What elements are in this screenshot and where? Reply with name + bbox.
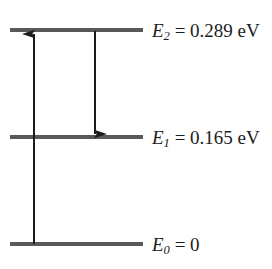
energy-unit-text-e1: eV [238, 127, 260, 148]
energy-level-label-e2: E2 = 0.289 eV [152, 21, 260, 40]
energy-symbol-e0: E [152, 234, 164, 255]
energy-value-e1: 0.165 [190, 127, 233, 148]
energy-value-e2: 0.289 [190, 20, 233, 41]
equals-sign-e0: = [170, 234, 190, 255]
energy-level-label-e1: E1 = 0.165 eV [152, 128, 260, 147]
energy-symbol-e2: E [152, 20, 164, 41]
energy-unit-text-e2: eV [238, 20, 260, 41]
energy-level-label-e0: E0 = 0 [152, 235, 200, 254]
equals-sign-e1: = [170, 127, 190, 148]
energy-symbol-e1: E [152, 127, 164, 148]
equals-sign-e2: = [170, 20, 190, 41]
energy-level-diagram: E2 = 0.289 eV E1 = 0.165 eV E0 = 0 [0, 0, 272, 269]
energy-value-e0: 0 [190, 234, 200, 255]
